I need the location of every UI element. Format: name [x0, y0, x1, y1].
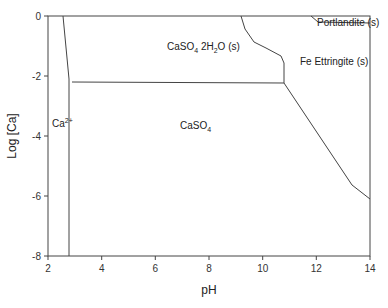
y-tick: -6	[32, 191, 41, 202]
y-axis	[44, 16, 48, 256]
region-label-portlandite: Portlandite (s)	[317, 17, 379, 28]
caso4-gypsum-boundary	[72, 82, 284, 83]
x-tick: 14	[364, 263, 376, 274]
ca-ion-boundary	[63, 16, 69, 256]
y-tick: -4	[32, 131, 41, 142]
x-tick: 8	[206, 263, 212, 274]
x-tick: 2	[45, 263, 51, 274]
region-label-caso4: CaSO4	[180, 120, 211, 133]
x-tick: 4	[99, 263, 105, 274]
x-axis	[48, 256, 370, 260]
x-tick-labels: 2 4 6 8 10 12 14	[45, 263, 376, 274]
x-tick: 6	[153, 263, 159, 274]
y-tick: -2	[32, 71, 41, 82]
x-tick: 12	[311, 263, 323, 274]
gypsum-ettringite-boundary	[241, 16, 284, 83]
plot-frame	[48, 16, 370, 256]
y-tick: 0	[35, 11, 41, 22]
y-axis-title: Log [Ca]	[5, 113, 19, 158]
x-tick: 10	[257, 263, 269, 274]
y-tick-labels: 0 -2 -4 -6 -8	[32, 11, 41, 262]
phase-diagram: 0 -2 -4 -6 -8 2 4 6 8 10 12 14 pH Log [C…	[0, 0, 388, 308]
caso4-ettringite-boundary	[284, 83, 370, 199]
region-label-gypsum: CaSO4 2H2O (s)	[167, 41, 240, 54]
region-label-fe-ettringite: Fe Ettringite (s)	[300, 56, 368, 67]
region-label-ca-ion: Ca2+	[52, 117, 73, 129]
x-axis-title: pH	[201, 283, 216, 297]
y-tick: -8	[32, 251, 41, 262]
